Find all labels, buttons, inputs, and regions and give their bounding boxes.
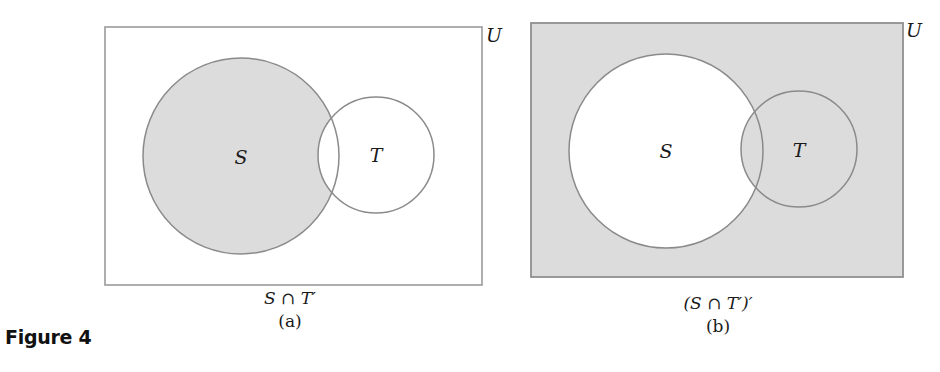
set-s-label-b: S bbox=[659, 140, 672, 162]
panel-b: S T U (S ∩ T′)′ (b) bbox=[531, 19, 923, 336]
panel-b-sublabel: (b) bbox=[706, 316, 730, 336]
panel-a-sublabel: (a) bbox=[278, 311, 301, 331]
figure-label: Figure 4 bbox=[5, 326, 91, 348]
venn-figure: S T U S ∩ T′ (a) S T U (S ∩ T′)′ (b) bbox=[0, 0, 940, 372]
panel-a-expression: S ∩ T′ bbox=[264, 288, 316, 308]
panel-a: S T U S ∩ T′ (a) bbox=[105, 24, 503, 331]
set-t-label-a: T bbox=[370, 144, 384, 166]
universe-label-b: U bbox=[906, 19, 923, 41]
panel-b-expression: (S ∩ T′)′ bbox=[683, 293, 752, 313]
set-s-label-a: S bbox=[234, 146, 247, 168]
set-t-label-b: T bbox=[793, 139, 807, 161]
universe-label-a: U bbox=[486, 24, 503, 46]
